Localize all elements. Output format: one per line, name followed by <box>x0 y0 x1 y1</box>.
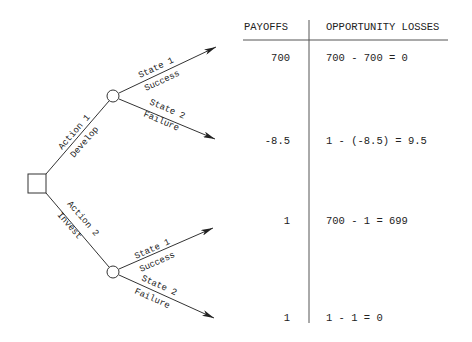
chance-node-1 <box>107 90 119 102</box>
payoff-row-1: 700 <box>271 52 290 64</box>
chance-node-2 <box>107 266 119 278</box>
loss-row-2: 1 - (-8.5) = 9.5 <box>326 135 427 147</box>
state-branch-2-2 <box>119 275 214 318</box>
action-1-branch <box>46 101 109 174</box>
decision-node <box>28 174 46 193</box>
payoff-row-2: -8.5 <box>265 135 290 147</box>
loss-row-4: 1 - 1 = 0 <box>326 312 383 324</box>
loss-row-1: 700 - 700 = 0 <box>326 52 408 64</box>
state-branch-1-1 <box>119 47 216 93</box>
decision-tree-diagram: Action 1 Develop Action 2 Invest State 1… <box>0 0 472 342</box>
opportunity-losses-header: OPPORTUNITY LOSSES <box>326 21 439 33</box>
payoff-row-4: 1 <box>284 312 290 324</box>
payoffs-header: PAYOFFS <box>244 21 288 33</box>
payoff-row-3: 1 <box>284 215 290 227</box>
loss-row-3: 700 - 1 = 699 <box>326 215 408 227</box>
